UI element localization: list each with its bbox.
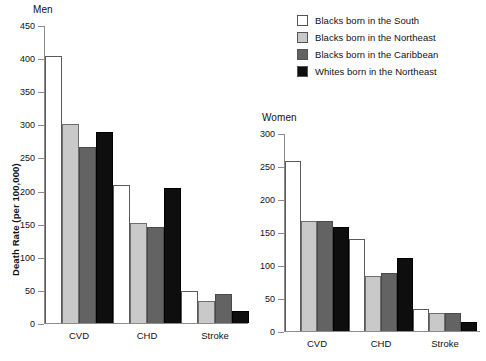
y-tick-mark bbox=[278, 299, 284, 300]
bar[interactable] bbox=[147, 227, 164, 323]
y-tick-mark bbox=[278, 233, 284, 234]
chart-legend: Blacks born in the SouthBlacks born in t… bbox=[297, 12, 483, 80]
y-tick-label: 150 bbox=[260, 228, 275, 238]
y-tick-label: 50 bbox=[25, 286, 35, 296]
chart-panel-women: Women 050100150200250300 CVDCHDStroke bbox=[252, 112, 484, 358]
y-tick-label: 50 bbox=[265, 294, 275, 304]
x-axis-category-label: CVD bbox=[45, 330, 113, 341]
bar[interactable] bbox=[45, 56, 62, 323]
x-axis-category-label: CHD bbox=[113, 330, 181, 341]
x-axis-category-label: CHD bbox=[349, 338, 413, 349]
plot-area-women: 050100150200250300 CVDCHDStroke bbox=[284, 134, 462, 332]
legend-row[interactable]: Whites born in the Northeast bbox=[297, 63, 483, 80]
y-tick-label: 450 bbox=[20, 21, 35, 31]
y-tick-label: 350 bbox=[20, 87, 35, 97]
bar[interactable] bbox=[381, 273, 397, 331]
y-tick-label: 400 bbox=[20, 54, 35, 64]
bar[interactable] bbox=[317, 221, 333, 331]
bar-groups-men: CVDCHDStroke bbox=[45, 26, 230, 323]
y-tick-mark bbox=[38, 26, 44, 27]
death-rate-figure: Men Death Rate (per 100,000) 05010015020… bbox=[0, 0, 486, 361]
bar[interactable] bbox=[198, 301, 215, 324]
bar[interactable] bbox=[445, 313, 461, 331]
bar[interactable] bbox=[429, 313, 445, 331]
bar[interactable] bbox=[181, 291, 198, 323]
legend-label: Blacks born in the South bbox=[315, 15, 419, 26]
y-tick-mark bbox=[278, 200, 284, 201]
x-axis-category-label: Stroke bbox=[181, 330, 249, 341]
y-tick-mark bbox=[38, 92, 44, 93]
y-tick-label: 0 bbox=[270, 327, 275, 337]
bar[interactable] bbox=[365, 276, 381, 331]
bar[interactable] bbox=[349, 239, 365, 331]
y-tick-mark bbox=[38, 291, 44, 292]
bar-group: Stroke bbox=[181, 26, 249, 323]
bar[interactable] bbox=[333, 227, 349, 331]
y-tick-label: 200 bbox=[260, 195, 275, 205]
y-tick-mark bbox=[278, 332, 284, 333]
y-tick-mark bbox=[38, 158, 44, 159]
bar[interactable] bbox=[413, 309, 429, 331]
plot-area-men: 050100150200250300350400450 CVDCHDStroke bbox=[44, 26, 230, 324]
bar[interactable] bbox=[113, 185, 130, 323]
legend-swatch-whites-northeast bbox=[297, 66, 308, 77]
bar-group: CVD bbox=[45, 26, 113, 323]
y-tick-label: 250 bbox=[20, 153, 35, 163]
legend-label: Whites born in the Northeast bbox=[315, 66, 437, 77]
bar[interactable] bbox=[285, 161, 301, 331]
chart-panel-men: Men Death Rate (per 100,000) 05010015020… bbox=[0, 4, 248, 356]
y-tick-label: 300 bbox=[260, 129, 275, 139]
y-tick-label: 200 bbox=[20, 187, 35, 197]
chart-title-men: Men bbox=[33, 4, 53, 15]
y-tick-label: 100 bbox=[20, 253, 35, 263]
bar-group: CHD bbox=[113, 26, 181, 323]
bar-groups-women: CVDCHDStroke bbox=[285, 134, 462, 331]
bar-group: CHD bbox=[349, 134, 413, 331]
legend-row[interactable]: Blacks born in the South bbox=[297, 12, 483, 29]
legend-row[interactable]: Blacks born in the Caribbean bbox=[297, 46, 483, 63]
bar[interactable] bbox=[62, 124, 79, 323]
bar[interactable] bbox=[461, 322, 477, 331]
y-tick-mark bbox=[38, 59, 44, 60]
y-tick-label: 0 bbox=[30, 319, 35, 329]
y-tick-mark bbox=[38, 192, 44, 193]
y-tick-mark bbox=[38, 225, 44, 226]
legend-swatch-blacks-caribbean bbox=[297, 49, 308, 60]
bar[interactable] bbox=[232, 311, 249, 323]
x-axis-category-label: CVD bbox=[285, 338, 349, 349]
y-tick-mark bbox=[278, 266, 284, 267]
y-tick-label: 300 bbox=[20, 120, 35, 130]
legend-swatch-blacks-northeast bbox=[297, 32, 308, 43]
bar[interactable] bbox=[96, 132, 113, 323]
y-tick-mark bbox=[38, 258, 44, 259]
legend-row[interactable]: Blacks born in the Northeast bbox=[297, 29, 483, 46]
y-tick-label: 100 bbox=[260, 261, 275, 271]
y-tick-mark bbox=[278, 167, 284, 168]
x-axis-category-label: Stroke bbox=[413, 338, 477, 349]
bar[interactable] bbox=[215, 294, 232, 323]
bar[interactable] bbox=[397, 258, 413, 331]
x-axis-line-men bbox=[44, 323, 248, 324]
legend-label: Blacks born in the Caribbean bbox=[315, 49, 438, 60]
legend-label: Blacks born in the Northeast bbox=[315, 32, 436, 43]
bar[interactable] bbox=[301, 221, 317, 331]
legend-swatch-blacks-south bbox=[297, 15, 308, 26]
y-tick-mark bbox=[278, 134, 284, 135]
x-axis-line-women bbox=[284, 331, 480, 332]
y-tick-mark bbox=[38, 125, 44, 126]
bar[interactable] bbox=[164, 188, 181, 323]
bar[interactable] bbox=[79, 147, 96, 323]
bar[interactable] bbox=[130, 223, 147, 323]
bar-group: CVD bbox=[285, 134, 349, 331]
y-tick-label: 150 bbox=[20, 220, 35, 230]
bar-group: Stroke bbox=[413, 134, 477, 331]
y-tick-mark bbox=[38, 324, 44, 325]
y-tick-label: 250 bbox=[260, 162, 275, 172]
chart-title-women: Women bbox=[262, 112, 297, 123]
